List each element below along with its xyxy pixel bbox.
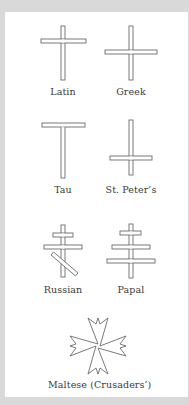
label-st-peters: St. Peter’s [81, 184, 181, 195]
tau-cross-icon [42, 123, 85, 178]
label-greek: Greek [81, 86, 181, 97]
russian-cross-icon [44, 225, 82, 277]
greek-cross-icon [105, 26, 157, 80]
maltese-cross-icon [70, 318, 126, 374]
papal-cross-icon [107, 224, 155, 278]
crosses-figure [0, 0, 189, 405]
latin-cross-icon [41, 26, 86, 80]
label-maltese: Maltese (Crusaders’) [48, 379, 148, 390]
st-peters-cross-icon [110, 120, 152, 175]
label-papal: Papal [81, 284, 181, 295]
